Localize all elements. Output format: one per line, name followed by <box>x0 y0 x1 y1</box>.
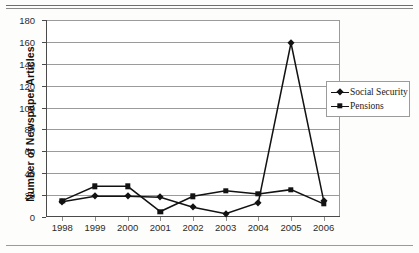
data-point-pensions-1999 <box>92 184 97 189</box>
data-point-pensions-2003 <box>223 188 228 193</box>
page-canvas: 020406080100120140160180 199819992000200… <box>0 0 419 253</box>
legend-item-pensions[interactable]: Pensions <box>330 99 407 113</box>
diamond-marker-icon <box>336 88 343 95</box>
square-marker-icon <box>337 103 342 108</box>
data-point-pensions-1998 <box>60 198 65 203</box>
series-line-social-security <box>62 43 323 214</box>
data-point-pensions-2006 <box>321 201 326 206</box>
data-point-pensions-2000 <box>125 184 130 189</box>
line-chart: 020406080100120140160180 199819992000200… <box>0 0 419 253</box>
series-lines <box>0 0 419 253</box>
legend-item-social-security[interactable]: Social Security <box>330 85 407 99</box>
data-point-pensions-2001 <box>158 209 163 214</box>
legend-key-social-security <box>330 86 350 98</box>
legend-key-pensions <box>330 100 350 112</box>
chart-legend: Social Security Pensions <box>326 81 410 117</box>
data-point-pensions-2002 <box>190 194 195 199</box>
legend-label-pensions: Pensions <box>350 100 384 112</box>
data-point-pensions-2004 <box>256 191 261 196</box>
data-point-pensions-2005 <box>288 187 293 192</box>
legend-label-social-security: Social Security <box>350 86 408 98</box>
